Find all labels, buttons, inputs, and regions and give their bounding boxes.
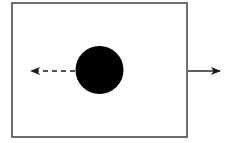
diagram-canvas	[0, 0, 229, 143]
ball	[76, 46, 124, 94]
